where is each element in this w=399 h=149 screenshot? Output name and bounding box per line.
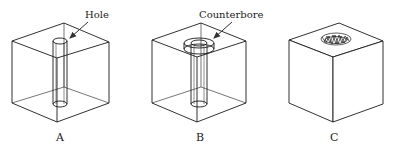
- counterbore-callout-arrow: [214, 22, 232, 38]
- figure-label-a: A: [55, 131, 65, 144]
- hole-callout-label: Hole: [85, 9, 109, 20]
- figure-label-b: B: [196, 131, 204, 144]
- diagram-canvas: Hole A Counterbore B C: [0, 0, 399, 149]
- counterbore-callout-label: Counterbore: [199, 9, 263, 20]
- cube-a-wireframe: [12, 23, 109, 122]
- hole-callout-arrow: [70, 22, 88, 38]
- cube-b-wireframe: [152, 23, 246, 122]
- figure-label-c: C: [330, 131, 338, 144]
- countersink-icon: [321, 33, 351, 45]
